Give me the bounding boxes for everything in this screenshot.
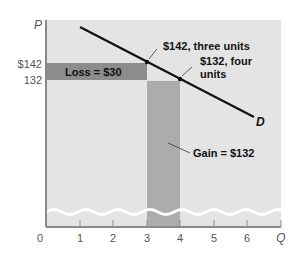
demand-label: D [256,115,265,129]
y-axis-title: P [34,18,42,32]
x-tick-3: 3 [144,232,150,244]
point-four-units [178,77,182,81]
x-tick-2: 2 [110,232,116,244]
annotation-four-units-line1: $132, four [200,55,253,67]
x-tick-0: 0 [37,232,43,244]
loss-label: Loss = $30 [65,66,122,78]
x-axis-title: Q [276,231,285,245]
point-three-units [145,60,149,64]
x-tick-1: 1 [77,232,83,244]
x-tick-5: 5 [211,232,217,244]
gain-label: Gain = $132 [193,147,254,159]
x-tick-6: 6 [244,232,250,244]
demand-chart: 0 1 2 3 4 5 6 Q P $142 132 $142, three u… [0,0,294,256]
gain-area [147,81,180,227]
annotation-three-units: $142, three units [163,40,250,52]
annotation-four-units-line2: units [200,68,226,80]
y-tick-132: 132 [24,74,42,86]
x-tick-4: 4 [177,232,183,244]
y-tick-142: $142 [18,58,42,70]
